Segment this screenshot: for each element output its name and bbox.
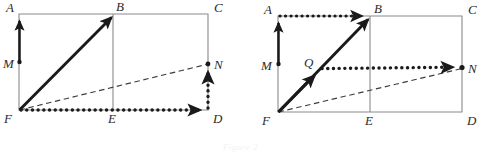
vertex-label-e: E [364, 113, 373, 128]
point-n-dot [206, 62, 211, 67]
figure-caption: Figure 2 [0, 142, 481, 152]
left-figure: A B C M N F E D [2, 0, 224, 126]
vertex-label-e: E [107, 111, 116, 126]
vector-f-to-n [279, 69, 461, 112]
vertex-label-b: B [374, 1, 382, 16]
right-figure: A B C M Q N F E D [260, 1, 478, 128]
vertex-label-d: D [212, 111, 223, 126]
vertex-label-a: A [5, 0, 14, 15]
point-m-dot [17, 60, 21, 64]
vertex-label-f: F [3, 111, 13, 126]
vertex-label-q: Q [304, 55, 314, 70]
vertex-label-m: M [260, 58, 273, 73]
vertex-label-b: B [116, 0, 124, 14]
vertex-label-f: F [261, 113, 271, 128]
vector-q-to-n [322, 67, 453, 68]
vertex-label-c: C [468, 2, 477, 17]
vertex-label-m: M [2, 56, 15, 71]
vertex-label-c: C [214, 0, 223, 15]
vertex-label-n: N [213, 57, 224, 72]
point-m-dot [276, 62, 280, 66]
geometry-figure-root: A B C M N F E D [0, 0, 481, 153]
point-n-dot [459, 65, 464, 70]
vertex-label-a: A [263, 2, 272, 17]
geometry-diagram: A B C M N F E D [0, 0, 481, 153]
vertex-label-d: D [466, 113, 477, 128]
vertex-label-n: N [467, 61, 478, 76]
vector-f-to-q [279, 76, 315, 113]
vector-f-to-b [20, 18, 112, 111]
